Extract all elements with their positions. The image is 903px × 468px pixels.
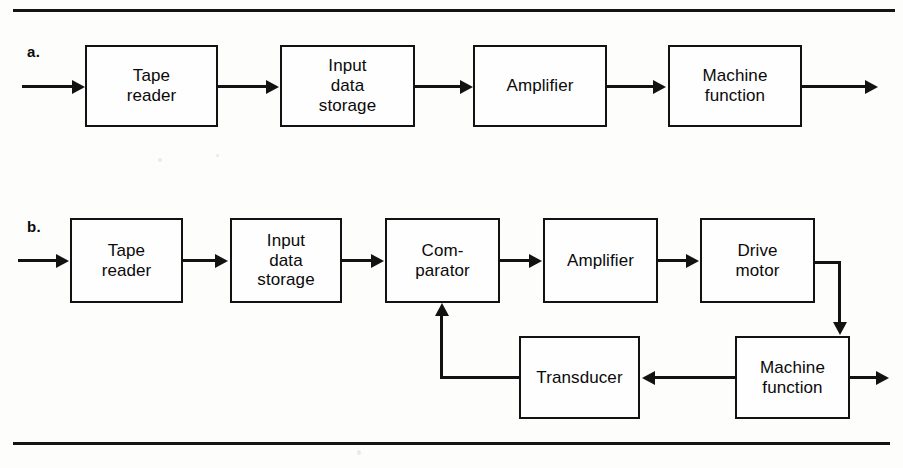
block-b-input-storage: Input data storage [230, 218, 342, 303]
scan-speck [357, 450, 361, 455]
a-conn-1-line [218, 85, 268, 88]
block-line: Input [319, 56, 376, 76]
block-b-tape-reader: Tape reader [70, 218, 183, 303]
b-feedback-v [440, 316, 443, 379]
a-conn-3-arrow-head [653, 80, 666, 94]
a-input-arrow-head [72, 80, 85, 94]
block-line: Machine [760, 358, 825, 378]
b-conn-1-arrow-head [215, 254, 228, 268]
b-machine-to-transducer-arrow-head [642, 371, 655, 385]
scan-speck [216, 154, 219, 157]
figure-bottom-rule [13, 442, 890, 445]
a-conn-3-line [607, 85, 655, 88]
b-conn-2-arrow-head [371, 254, 384, 268]
block-line: Amplifier [567, 251, 634, 271]
block-line: motor [736, 261, 780, 281]
b-feedback-h [440, 376, 521, 379]
block-a-machine-function: Machine function [668, 45, 802, 127]
block-line: Drive [736, 241, 780, 261]
scan-speck [158, 158, 162, 162]
a-conn-2-line [415, 85, 462, 88]
block-line: Machine [703, 66, 768, 86]
block-line: Tape [102, 241, 152, 261]
block-line: reader [127, 86, 177, 106]
b-drive-to-machine-arrow-head [833, 322, 847, 335]
b-machine-to-transducer-line [654, 376, 735, 379]
b-output-arrow-head [876, 371, 889, 385]
b-conn-4-arrow-head [686, 254, 699, 268]
block-line: Tape [127, 66, 177, 86]
b-drive-to-machine-v [838, 261, 841, 323]
b-conn-3-arrow-head [529, 254, 542, 268]
diagram-a-label: a. [27, 44, 40, 59]
b-conn-2-line [342, 259, 373, 262]
block-line: storage [319, 96, 376, 116]
a-input-arrow-line [22, 85, 75, 88]
block-a-tape-reader: Tape reader [85, 45, 218, 127]
block-line: Transducer [536, 368, 622, 388]
block-line: Input [257, 231, 314, 251]
block-line: parator [415, 261, 470, 281]
b-conn-1-line [183, 259, 217, 262]
b-feedback-arrow-head [435, 303, 449, 316]
block-a-input-storage: Input data storage [280, 45, 415, 127]
block-b-comparator: Com- parator [385, 218, 500, 303]
figure-page: a. Tape reader Input data storage Amplif… [0, 0, 903, 468]
block-line: function [760, 378, 825, 398]
block-line: storage [257, 270, 314, 290]
block-line: Amplifier [506, 76, 573, 96]
block-line: Com- [415, 241, 470, 261]
block-line: function [703, 86, 768, 106]
a-conn-2-arrow-head [460, 80, 473, 94]
block-b-machine-function: Machine function [735, 336, 850, 419]
b-input-arrow-line [18, 259, 58, 262]
a-output-arrow-head [865, 80, 878, 94]
b-input-arrow-head [56, 254, 69, 268]
figure-top-rule [13, 9, 895, 12]
block-b-drive-motor: Drive motor [700, 218, 815, 303]
diagram-b-label: b. [27, 219, 41, 234]
a-conn-1-arrow-head [266, 80, 279, 94]
block-line: data [257, 251, 314, 271]
b-conn-3-line [500, 259, 530, 262]
block-line: data [319, 76, 376, 96]
a-output-arrow-line [802, 85, 867, 88]
block-line: reader [102, 261, 152, 281]
block-b-transducer: Transducer [519, 336, 640, 419]
block-b-amplifier: Amplifier [543, 218, 658, 303]
block-a-amplifier: Amplifier [473, 45, 607, 127]
b-conn-4-line [658, 259, 687, 262]
